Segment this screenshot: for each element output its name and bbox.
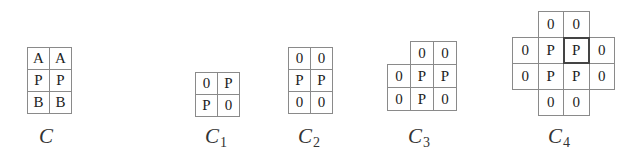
grid-cell: 0 [288, 47, 311, 70]
label-subscript: 2 [313, 135, 320, 150]
grid-cell: A [27, 47, 50, 70]
grid-cell: 0 [195, 72, 218, 95]
grid-cell: B [49, 91, 72, 114]
grid-cell: P [433, 64, 457, 88]
grid-cell: 0 [563, 89, 590, 116]
grid-cell: P [27, 69, 50, 92]
grid-cell: 0 [589, 37, 616, 64]
grid-cell: 0 [387, 87, 411, 111]
figure-label-c4: C4 [548, 124, 570, 151]
grid-cell: P [538, 63, 565, 90]
label-main: C [39, 124, 53, 148]
grid-cell: P [410, 64, 434, 88]
figure-label-c3: C3 [408, 124, 430, 151]
grid-cell: 0 [538, 11, 565, 38]
grid-cell: 0 [589, 63, 616, 90]
grid-cell: B [27, 91, 50, 114]
grid-cell: P [563, 37, 590, 64]
label-main: C [205, 124, 219, 148]
grid-cell: 0 [288, 91, 311, 114]
grid-cell: P [538, 37, 565, 64]
grid-cell: 0 [410, 41, 434, 65]
label-main: C [298, 124, 312, 148]
label-subscript: 1 [220, 135, 227, 150]
grid-cell: P [195, 94, 218, 117]
grid-cell: 0 [433, 87, 457, 111]
grid-cell: P [288, 69, 311, 92]
grid-cell: 0 [387, 64, 411, 88]
label-main: C [408, 124, 422, 148]
grid-cell: P [410, 87, 434, 111]
grid-cell: 0 [512, 37, 539, 64]
grid-cell: 0 [563, 11, 590, 38]
grid-cell: 0 [310, 91, 333, 114]
figure-label-c1: C1 [205, 124, 227, 151]
grid-cell: P [310, 69, 333, 92]
grid-cell: 0 [433, 41, 457, 65]
grid-cell: 0 [538, 89, 565, 116]
label-subscript: 4 [563, 135, 570, 150]
grid-cell: 0 [512, 63, 539, 90]
grid-cell: P [49, 69, 72, 92]
grid-cell: P [563, 63, 590, 90]
figure-label-c2: C2 [298, 124, 320, 151]
label-subscript: 3 [423, 135, 430, 150]
figure-label-c: C [39, 124, 53, 149]
grid-cell: A [49, 47, 72, 70]
label-main: C [548, 124, 562, 148]
grid-cell: P [217, 72, 240, 95]
grid-cell: 0 [310, 47, 333, 70]
grid-cell: 0 [217, 94, 240, 117]
